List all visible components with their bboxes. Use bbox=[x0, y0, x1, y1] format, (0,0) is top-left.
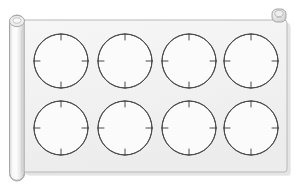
motif-r2-c3 bbox=[162, 101, 216, 155]
motif-r2-c2 bbox=[98, 101, 152, 155]
top-right-rod-cap-icon bbox=[272, 9, 286, 22]
motif-r1-c2 bbox=[98, 34, 152, 88]
left-rolled-rod bbox=[10, 15, 25, 181]
motif-r2-c4 bbox=[224, 101, 278, 155]
motif-r1-c1 bbox=[34, 34, 88, 88]
scroll-illustration-svg bbox=[0, 0, 301, 191]
motif-r1-c3 bbox=[162, 34, 216, 88]
motif-r2-c1 bbox=[34, 101, 88, 155]
illustration-canvas: Unrolled scroll panel with circular star… bbox=[0, 0, 301, 191]
motif-r1-c4 bbox=[224, 34, 278, 88]
